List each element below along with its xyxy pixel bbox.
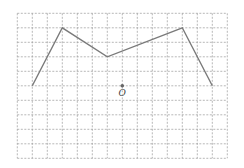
grid-diagram: O [0,0,244,168]
point-o-label: O [119,88,127,98]
